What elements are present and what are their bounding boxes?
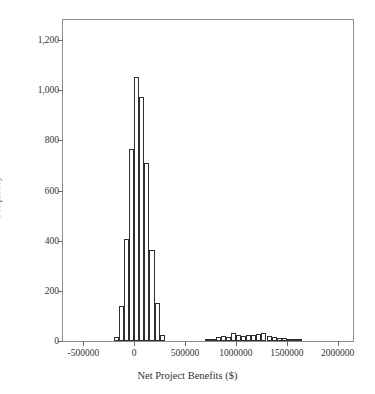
y-axis-title-text: Frequency <box>0 176 2 218</box>
y-tick-label: 1,200 <box>38 35 59 45</box>
histogram-bar <box>297 339 302 341</box>
x-tick-mark <box>134 341 135 346</box>
y-tick-label: 600 <box>45 186 59 196</box>
x-tick-label: 0 <box>132 348 137 358</box>
x-tick-mark <box>83 341 84 346</box>
histogram-figure: Frequency 02004006008001,0001,200 -50000… <box>0 0 375 394</box>
y-axis-title: Frequency <box>0 0 22 394</box>
x-axis-title-text: Net Project Benefits ($) <box>137 370 237 381</box>
y-tick-label: 0 <box>54 336 59 346</box>
y-tick-label: 800 <box>45 135 59 145</box>
y-tick-label: 400 <box>45 236 59 246</box>
x-tick-mark <box>185 341 186 346</box>
x-axis-title: Net Project Benefits ($) <box>0 370 375 381</box>
plot-frame: 02004006008001,0001,200 -500000050000010… <box>62 19 354 342</box>
x-tick-mark <box>287 341 288 346</box>
x-tick-mark <box>236 341 237 346</box>
x-tick-label: 500000 <box>171 348 200 358</box>
x-tick-label: 1500000 <box>270 348 303 358</box>
plot-area: 02004006008001,0001,200 -500000050000010… <box>63 20 353 341</box>
x-tick-mark <box>338 341 339 346</box>
x-tick-label: 2000000 <box>321 348 354 358</box>
x-tick-label: -500000 <box>68 348 100 358</box>
x-tick-label: 1000000 <box>219 348 252 358</box>
y-tick-label: 200 <box>45 286 59 296</box>
histogram-bar <box>160 335 165 341</box>
y-tick-label: 1,000 <box>38 85 59 95</box>
